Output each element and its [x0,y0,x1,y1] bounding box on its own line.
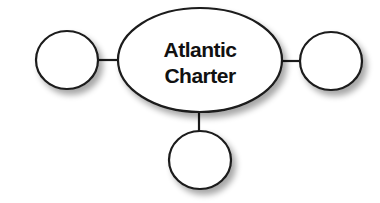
satellite-node-left[interactable] [36,31,98,89]
satellite-node-bottom[interactable] [169,131,231,189]
center-label-line-2: Charter [164,64,236,87]
satellite-node-right[interactable] [300,32,362,90]
concept-web-diagram: Atlantic Charter [0,0,380,203]
center-label-line-1: Atlantic [163,38,237,61]
